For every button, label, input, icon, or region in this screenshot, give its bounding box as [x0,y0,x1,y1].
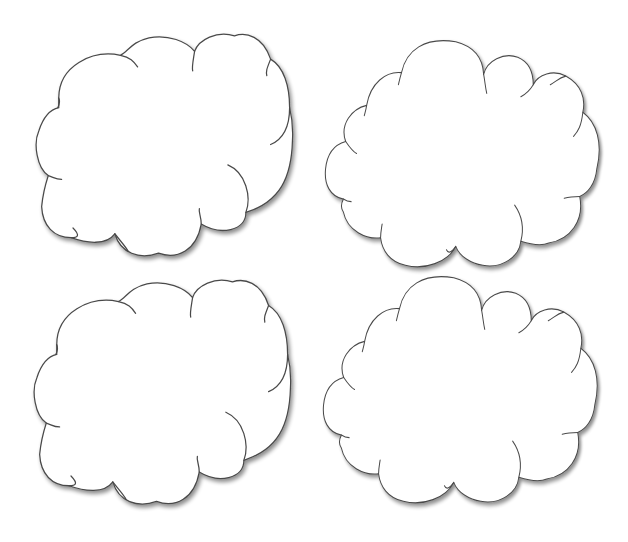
cloud-top-left [36,34,293,256]
cloud-canvas [0,0,628,542]
cloud-bottom-right [323,277,597,503]
cloud-bottom-left [34,280,291,504]
cloud-top-right [325,41,599,267]
